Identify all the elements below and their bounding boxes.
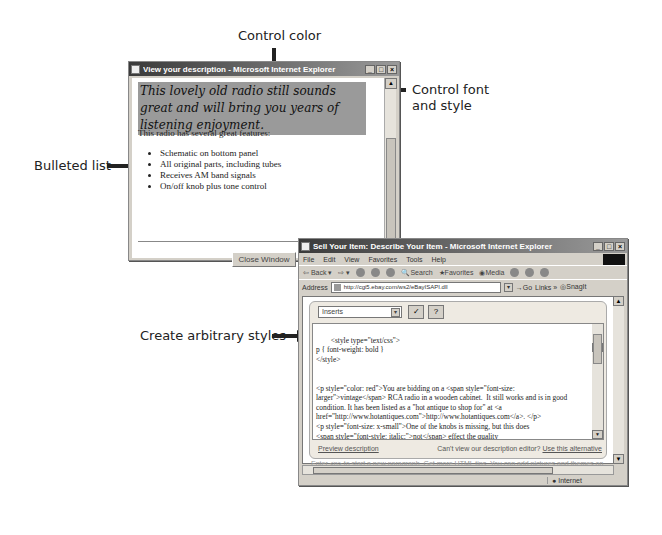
callout-bulleted-list: Bulleted list bbox=[34, 158, 111, 174]
menu-tools[interactable]: Tools bbox=[406, 256, 422, 263]
horizontal-scrollbar[interactable] bbox=[302, 465, 614, 475]
media-label: Media bbox=[485, 269, 504, 276]
address-bar: Address http://cgi5.ebay.com/ws2/eBayISA… bbox=[299, 279, 627, 294]
callout-control-color: Control color bbox=[238, 28, 321, 44]
forward-button[interactable]: ⇨ ▾ bbox=[338, 269, 350, 277]
security-zone: ● Internet bbox=[547, 477, 607, 484]
search-label: Search bbox=[410, 269, 432, 276]
list-item: Schematic on bottom panel bbox=[160, 148, 281, 159]
go-label: Go bbox=[523, 284, 532, 291]
chevron-down-icon[interactable]: ▾ bbox=[504, 283, 513, 292]
arrow-arbitrary-styles bbox=[272, 334, 298, 338]
media-button[interactable]: ◉Media bbox=[479, 269, 504, 277]
editor-scrollbar[interactable]: ▲ ▼ bbox=[592, 324, 603, 439]
favorites-label: Favorites bbox=[445, 269, 474, 276]
menu-view[interactable]: View bbox=[344, 256, 359, 263]
refresh-icon[interactable] bbox=[371, 268, 380, 277]
preview-scrollbar[interactable]: ▲ bbox=[384, 78, 396, 258]
cant-view-text: Can't view our description editor? Use t… bbox=[437, 445, 602, 452]
go-button[interactable]: →Go bbox=[516, 284, 532, 291]
print-icon[interactable] bbox=[540, 268, 549, 277]
preview-title: View your description - Microsoft Intern… bbox=[143, 65, 365, 74]
minimize-button[interactable]: _ bbox=[365, 65, 375, 74]
list-item: Receives AM band signals bbox=[160, 170, 281, 181]
chevron-down-icon[interactable]: ▾ bbox=[391, 308, 400, 317]
editor-text: <style type="text/css"> p { font-weight:… bbox=[316, 336, 567, 440]
help-button[interactable]: ? bbox=[428, 305, 444, 319]
status-bar: ● Internet bbox=[299, 475, 627, 486]
ie-icon bbox=[131, 65, 140, 74]
scroll-up-icon[interactable]: ▲ bbox=[613, 296, 624, 306]
scroll-down-icon[interactable]: ▼ bbox=[613, 454, 624, 464]
back-button[interactable]: ⇦ Back ▾ bbox=[303, 269, 332, 277]
address-label: Address bbox=[302, 284, 328, 291]
ie-icon bbox=[301, 242, 310, 251]
editor-links: Preview description Can't view our descr… bbox=[318, 445, 602, 452]
cant-view-label: Can't view our description editor? bbox=[437, 445, 540, 452]
callout-control-font: Control font and style bbox=[412, 82, 489, 114]
maximize-button[interactable]: □ bbox=[376, 65, 386, 74]
editor-titlebar: Sell Your Item: Describe Your Item - Mic… bbox=[299, 239, 627, 253]
links-button[interactable]: Links » bbox=[535, 284, 557, 291]
close-button[interactable]: × bbox=[615, 242, 625, 251]
toolbar: ⇦ Back ▾ ⇨ ▾ 🔍Search ★Favorites ◉Media bbox=[299, 265, 627, 279]
scroll-thumb[interactable] bbox=[593, 334, 602, 364]
html-editor-textarea[interactable]: <style type="text/css"> p { font-weight:… bbox=[312, 323, 604, 440]
menu-bar: File Edit View Favorites Tools Help bbox=[299, 253, 627, 265]
list-item: All original parts, including tubes bbox=[160, 159, 281, 170]
snagit-button[interactable]: ◎SnagIt bbox=[560, 283, 586, 291]
features-list: Schematic on bottom panel All original p… bbox=[154, 148, 281, 192]
callout-arbitrary-styles: Create arbitrary styles bbox=[140, 328, 286, 344]
home-icon[interactable] bbox=[386, 268, 395, 277]
scroll-thumb[interactable] bbox=[313, 467, 553, 474]
maximize-button[interactable]: □ bbox=[604, 242, 614, 251]
back-label: Back bbox=[311, 269, 327, 276]
mail-icon[interactable] bbox=[525, 268, 534, 277]
scroll-down-icon[interactable]: ▼ bbox=[592, 430, 603, 439]
menu-favorites[interactable]: Favorites bbox=[368, 256, 397, 263]
spellcheck-button[interactable]: ✓ bbox=[408, 305, 424, 319]
editor-title: Sell Your Item: Describe Your Item - Mic… bbox=[313, 242, 593, 251]
page-scrollbar[interactable]: ▲ ▼ bbox=[613, 296, 624, 464]
preview-description-link[interactable]: Preview description bbox=[318, 445, 379, 452]
preview-content: This lovely old radio still sounds great… bbox=[132, 78, 384, 258]
scroll-up-icon[interactable]: ▲ bbox=[385, 78, 397, 89]
zone-label: Internet bbox=[558, 477, 582, 484]
menu-edit[interactable]: Edit bbox=[323, 256, 335, 263]
close-button[interactable]: × bbox=[387, 65, 397, 74]
address-input[interactable]: http://cgi5.ebay.com/ws2/eBayISAPI.dll bbox=[331, 282, 501, 293]
minimize-button[interactable]: _ bbox=[593, 242, 603, 251]
links-label: Links bbox=[535, 284, 551, 291]
use-alternative-link[interactable]: Use this alternative bbox=[542, 445, 602, 452]
windows-logo-icon bbox=[603, 254, 625, 265]
stop-icon[interactable] bbox=[356, 268, 365, 277]
description-editor-panel: Inserts ▾ ✓ ? <style type="text/css"> p … bbox=[309, 301, 607, 459]
menu-file[interactable]: File bbox=[303, 256, 314, 263]
snagit-label: SnagIt bbox=[566, 283, 586, 290]
list-item: On/off knob plus tone control bbox=[160, 181, 281, 192]
history-icon[interactable] bbox=[510, 268, 519, 277]
search-button[interactable]: 🔍Search bbox=[401, 269, 432, 277]
page-area: Inserts ▾ ✓ ? <style type="text/css"> p … bbox=[302, 296, 614, 464]
menu-help[interactable]: Help bbox=[432, 256, 446, 263]
preview-titlebar: View your description - Microsoft Intern… bbox=[129, 62, 399, 76]
inserts-label: Inserts bbox=[322, 308, 343, 315]
inserts-select[interactable]: Inserts ▾ bbox=[318, 306, 402, 318]
scroll-thumb[interactable] bbox=[386, 138, 396, 248]
callout-control-font-line2: and style bbox=[412, 98, 489, 114]
close-window-button[interactable]: Close Window bbox=[232, 252, 296, 267]
callout-control-font-line1: Control font bbox=[412, 82, 489, 98]
editor-window: Sell Your Item: Describe Your Item - Mic… bbox=[298, 238, 628, 486]
favorites-button[interactable]: ★Favorites bbox=[439, 269, 474, 277]
preview-window: View your description - Microsoft Intern… bbox=[128, 61, 400, 261]
intro-text: This radio has several great features: bbox=[138, 128, 270, 138]
